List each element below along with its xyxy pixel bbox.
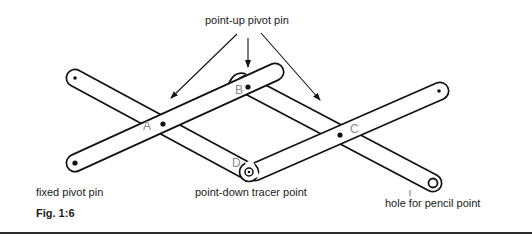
pivot-label-a: A — [143, 120, 151, 132]
label-pencil-hole: hole for pencil point — [385, 198, 480, 209]
upper-right-end-dot — [437, 89, 441, 93]
pivot-a-dot — [160, 121, 165, 126]
pivot-label-d: D — [232, 157, 241, 169]
label-point-up-pivot-pin: point-up pivot pin — [205, 15, 289, 26]
pivot-b-dot — [245, 84, 250, 89]
pivot-c-dot — [337, 132, 342, 137]
fixed-pivot-dot — [72, 160, 77, 165]
label-fixed-pivot-pin: fixed pivot pin — [36, 187, 103, 198]
figure-caption: Fig. 1:6 — [36, 208, 75, 219]
pencil-hole-icon — [429, 179, 438, 188]
pivot-label-c: C — [350, 123, 359, 135]
pivot-label-b: B — [235, 84, 243, 96]
upper-left-end-dot — [73, 76, 77, 80]
bottom-rule — [0, 232, 532, 234]
label-tracer-point: point-down tracer point — [195, 187, 307, 198]
